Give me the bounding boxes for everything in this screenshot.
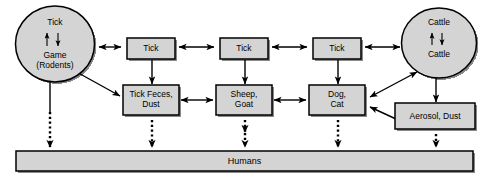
tick-1-box	[127, 38, 175, 59]
transmission-diagram: Tick Game (Rodents) Cattle Cattle Tick T…	[0, 0, 482, 185]
dog-cat-box	[309, 85, 365, 115]
node-layer	[16, 6, 477, 171]
cattle-reservoir-ellipse	[402, 8, 477, 78]
sheep-goat-box	[216, 85, 272, 115]
humans-bar-rect	[16, 151, 473, 171]
diagram-canvas	[0, 0, 482, 185]
game-reservoir-ellipse	[16, 6, 95, 82]
tick-3-box	[313, 38, 361, 59]
aerosol-dust-box	[395, 103, 475, 129]
edge-aerosol-dog	[370, 107, 396, 119]
edge-cattle-dog	[370, 72, 417, 97]
tick-feces-dust-box	[123, 85, 179, 115]
tick-2-box	[220, 38, 268, 59]
